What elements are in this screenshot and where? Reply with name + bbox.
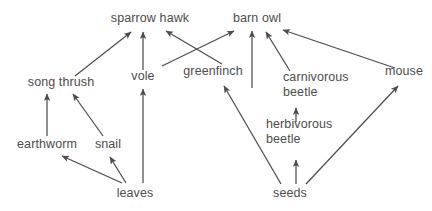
food-web-diagram: sparrow hawkbarn owlsong thrushvolegreen…	[0, 0, 432, 211]
node-song_thrush: song thrush	[28, 75, 94, 90]
arrow-snail-song-thrush	[73, 94, 103, 136]
arrow-song-thrush-sparrow-hawk	[75, 32, 131, 76]
arrow-vole-barn-owl	[162, 31, 234, 66]
arrow-greenfinch-sparrow-hawk	[166, 31, 222, 64]
node-mouse: mouse	[385, 64, 423, 79]
node-snail: snail	[95, 137, 121, 152]
node-sparrow_hawk: sparrow hawk	[111, 11, 189, 26]
node-leaves: leaves	[117, 186, 154, 201]
node-barn_owl: barn owl	[233, 11, 281, 26]
arrow-leaves-earthworm	[62, 156, 122, 183]
links-group	[47, 30, 398, 184]
food-web-arrows	[0, 0, 432, 211]
arrow-carn-beetle-barn-owl	[266, 32, 290, 71]
arrow-mouse-barn-owl	[283, 30, 395, 68]
node-greenfinch: greenfinch	[183, 64, 242, 79]
node-earthworm: earthworm	[17, 137, 77, 152]
node-herbivorous_beetle: herbivorous beetle	[266, 117, 332, 147]
node-carnivorous_beetle: carnivorous beetle	[283, 70, 349, 100]
node-seeds: seeds	[273, 186, 307, 201]
node-vole: vole	[131, 69, 154, 84]
